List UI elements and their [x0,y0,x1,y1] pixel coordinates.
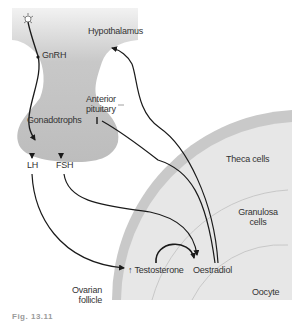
label-follicle: follicle [62,295,102,305]
label-gonadotrophs: Gonadotrophs [27,115,82,125]
label-oocyte: Oocyte [252,287,279,297]
label-ovarian: Ovarian [62,285,102,295]
label-gnrh: GnRH [42,50,66,60]
endocrine-diagram: Hypothalamus GnRH Anterior pituitary Gon… [0,0,292,321]
label-pituitary: pituitary [86,104,116,114]
label-theca-cells: Theca cells [226,154,269,164]
label-oestradiol: Oestradiol [193,265,232,275]
label-testosterone: ↑ Testosterone [128,265,184,275]
label-granulosa-cells: cells [238,217,278,227]
label-granulosa: Granulosa [238,207,278,217]
figure-caption: Fig. 13.11 [12,312,53,321]
label-fsh: FSH [56,160,73,170]
gnrh-terminal [36,55,39,58]
label-lh: LH [27,160,38,170]
label-anterior: Anterior [86,94,116,104]
label-hypothalamus: Hypothalamus [88,26,143,36]
lh-to-testosterone-arrow [32,174,124,268]
